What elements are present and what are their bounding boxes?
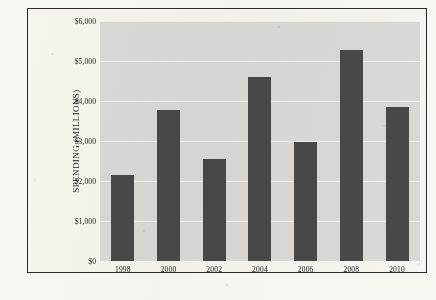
- bar-1998: [111, 175, 134, 261]
- x-axis-tick-label: 2002: [191, 265, 237, 274]
- bar-2008: [340, 50, 363, 261]
- x-axis-tick-label: 2008: [329, 265, 375, 274]
- bar-slot: [191, 21, 237, 261]
- x-axis-tick-label: 2000: [146, 265, 192, 274]
- bar-slot: [374, 21, 420, 261]
- bar-slot: [100, 21, 146, 261]
- bar-slot: [283, 21, 329, 261]
- bar-2010: [386, 107, 409, 261]
- bar-2006: [294, 142, 317, 261]
- bar-slot: [237, 21, 283, 261]
- plot-area: [100, 21, 420, 261]
- y-axis-tick-label: $1,000: [75, 217, 96, 226]
- y-axis-tick-label: $3,000: [75, 137, 96, 146]
- bar-series: [100, 21, 420, 261]
- bar-slot: [146, 21, 192, 261]
- y-axis-tick-label: $6,000: [75, 17, 96, 26]
- bar-2000: [157, 110, 180, 261]
- y-axis-tick-label: $4,000: [75, 97, 96, 106]
- x-axis-tick-label: 2006: [283, 265, 329, 274]
- x-axis-tick-labels: 1998200020022004200620082010: [100, 265, 420, 274]
- bar-2004: [248, 77, 271, 261]
- x-axis-tick-label: 2004: [237, 265, 283, 274]
- bar-slot: [329, 21, 375, 261]
- y-axis-tick-label: $5,000: [75, 57, 96, 66]
- bar-2002: [203, 159, 226, 261]
- y-axis-tick-label: $0: [88, 257, 96, 266]
- y-axis-tick-labels: $0$1,000$2,000$3,000$4,000$5,000$6,000: [44, 21, 96, 261]
- x-axis-tick-label: 1998: [100, 265, 146, 274]
- chart-frame: SPENDING (MILLIONS) $0$1,000$2,000$3,000…: [27, 8, 427, 273]
- x-axis-tick-label: 2010: [374, 265, 420, 274]
- y-axis-tick-label: $2,000: [75, 177, 96, 186]
